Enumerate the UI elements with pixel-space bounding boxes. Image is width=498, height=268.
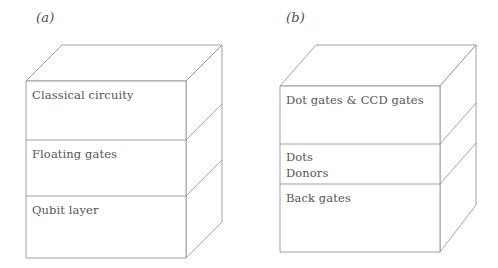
panel-a-layer-3-label: Qubit layer bbox=[32, 203, 99, 217]
panel-a-right-face bbox=[186, 45, 222, 258]
panel-b-layer-1-label: Dot gates & CCD gates bbox=[286, 93, 424, 107]
panel-a-front-face bbox=[26, 81, 186, 258]
figure-root: (a) Classical circuity Floating gates Qu… bbox=[0, 0, 498, 268]
panel-a-layer-2-label: Floating gates bbox=[32, 147, 117, 161]
panel-b-layer-2-line-1-label: Dots bbox=[286, 150, 313, 164]
panel-b: (b) Dot gates & CCD gates Dots Donors Ba… bbox=[249, 0, 498, 268]
panel-b-box-drawing bbox=[249, 0, 498, 268]
panel-b-layer-2-line-2-label: Donors bbox=[286, 166, 328, 180]
panel-a: (a) Classical circuity Floating gates Qu… bbox=[0, 0, 249, 268]
panel-a-layer-1-label: Classical circuity bbox=[32, 88, 134, 102]
panel-b-layer-3-label: Back gates bbox=[286, 191, 351, 205]
panel-a-box-drawing bbox=[0, 0, 249, 268]
